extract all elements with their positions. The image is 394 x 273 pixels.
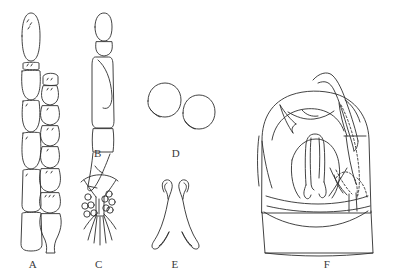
panel-e-parameres <box>152 180 199 249</box>
panel-d-spermathecae <box>148 83 215 129</box>
panel-label-f: F <box>324 258 331 270</box>
panel-label-c: C <box>95 258 103 270</box>
panel-a-left-chain <box>21 13 42 251</box>
panel-label-e: E <box>171 258 178 270</box>
panel-f-hidden-dotted-outlines <box>336 105 367 198</box>
panel-f-genital-capsule <box>258 73 374 256</box>
panel-label-b: B <box>94 147 102 159</box>
panel-c-sensory-field <box>81 175 118 245</box>
panel-label-a: A <box>29 258 37 270</box>
panel-b-appendage <box>88 13 114 191</box>
line-art-canvas <box>0 0 394 273</box>
panel-c-pore-circles <box>82 191 115 217</box>
figure-plate: A B C D E F <box>0 0 394 273</box>
panel-a-right-chain <box>40 73 62 253</box>
panel-label-d: D <box>172 147 180 159</box>
